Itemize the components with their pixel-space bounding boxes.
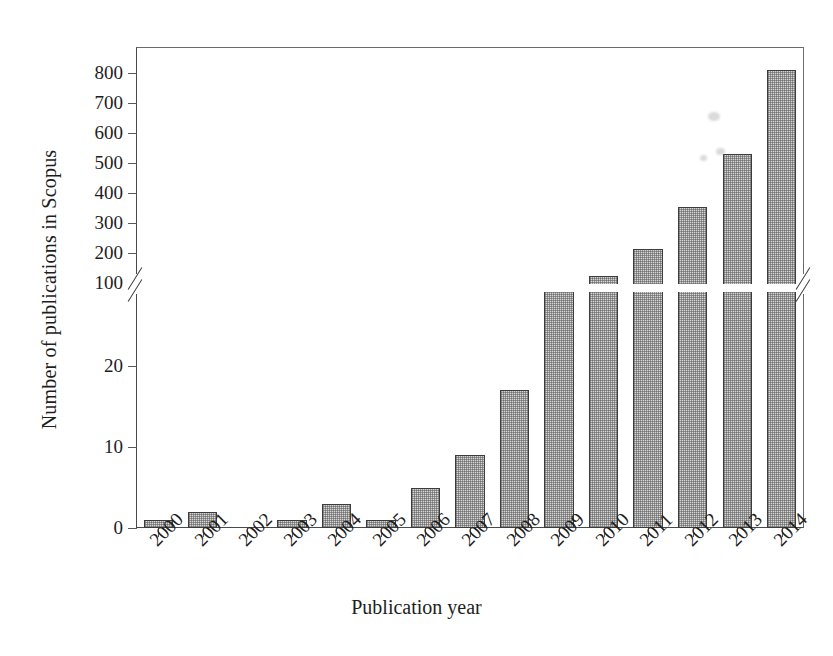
scan-smudge [700,155,707,161]
x-axis-title: Publication year [0,596,833,619]
bar-2010 [589,276,618,529]
y-tick-800 [128,73,137,74]
y-tick-label-700: 700 [63,93,123,112]
y-axis-title: Number of publications in Scopus [38,110,61,470]
y-tick-400 [128,193,137,194]
y-tick-0 [128,528,137,529]
y-tick-label-100: 100 [63,273,123,292]
y-tick-label-0: 0 [63,518,123,537]
bar-2009 [544,286,573,528]
y-tick-label-20: 20 [63,356,123,375]
bar-2013 [723,154,752,528]
bar-2008 [500,390,529,528]
y-tick-300 [128,223,137,224]
bar-chart: Number of publications in Scopus 0102010… [0,0,833,656]
y-tick-700 [128,103,137,104]
y-tick-20 [128,366,137,367]
y-tick-10 [128,447,137,448]
y-tick-label-500: 500 [63,153,123,172]
y-tick-600 [128,133,137,134]
y-tick-label-800: 800 [63,63,123,82]
y-tick-label-400: 400 [63,183,123,202]
axis-break-band [138,284,803,292]
y-tick-500 [128,163,137,164]
y-tick-label-600: 600 [63,123,123,142]
y-tick-label-300: 300 [63,213,123,232]
scan-smudge [708,112,720,121]
y-tick-label-200: 200 [63,243,123,262]
y-tick-200 [128,253,137,254]
bar-2014 [767,70,796,528]
scan-smudge [716,148,725,155]
bar-2012 [678,207,707,528]
y-tick-label-10: 10 [63,437,123,456]
